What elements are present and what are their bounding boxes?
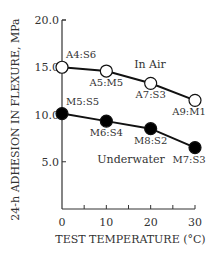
y-tick-label: 5.0 bbox=[42, 156, 60, 169]
open-circle-marker bbox=[56, 61, 68, 73]
x-tick-label: 10 bbox=[99, 216, 113, 229]
plot-area: A4:S6A5:M5A7:S3A9:M1M5:S5M6:S4M8:S2M7:S3… bbox=[56, 49, 206, 166]
series-label-in-air: In Air bbox=[134, 58, 166, 71]
filled-circle-marker bbox=[100, 115, 112, 127]
adhesion-chart: 5.010.015.020.00102030TEST TEMPERATURE (… bbox=[0, 0, 221, 259]
y-tick-label: 20.0 bbox=[35, 14, 60, 27]
y-axis-title: 24-h ADHESION IN FLEXURE, MPa bbox=[9, 18, 22, 221]
point-label: M5:S5 bbox=[66, 96, 99, 107]
point-label: M8:S2 bbox=[134, 135, 167, 146]
x-tick-label: 30 bbox=[188, 216, 202, 229]
x-tick-label: 0 bbox=[59, 216, 66, 229]
series-line bbox=[62, 114, 195, 148]
filled-circle-marker bbox=[189, 142, 201, 154]
open-circle-marker bbox=[145, 77, 157, 89]
y-tick-label: 10.0 bbox=[35, 109, 60, 122]
open-circle-marker bbox=[189, 94, 201, 106]
point-label: A7:S3 bbox=[135, 89, 166, 100]
x-axis-title: TEST TEMPERATURE (°C) bbox=[55, 233, 205, 246]
open-circle-marker bbox=[100, 65, 112, 77]
series-label-underwater: Underwater bbox=[97, 153, 165, 166]
point-label: A9:M1 bbox=[171, 106, 206, 117]
filled-circle-marker bbox=[145, 123, 157, 135]
point-label: A5:M5 bbox=[89, 77, 124, 88]
point-label: M6:S4 bbox=[90, 127, 123, 138]
point-label: A4:S6 bbox=[65, 49, 96, 60]
x-tick-label: 20 bbox=[144, 216, 158, 229]
filled-circle-marker bbox=[56, 108, 68, 120]
point-label: M7:S3 bbox=[172, 154, 205, 165]
y-tick-label: 15.0 bbox=[35, 61, 60, 74]
